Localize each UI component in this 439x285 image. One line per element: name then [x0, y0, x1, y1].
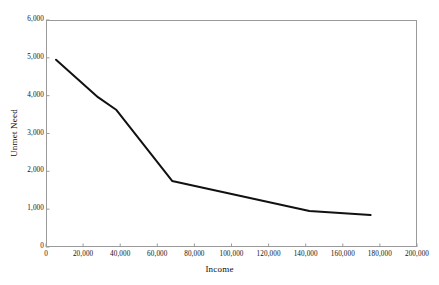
unmet-need-line	[56, 60, 371, 215]
plot-canvas	[0, 0, 439, 285]
x-tick-label-10: 200,000	[387, 251, 439, 258]
x-axis-ticks	[46, 244, 417, 248]
unmet-need-income-line-chart: 01,0002,0003,0004,0005,0006,000 020,0004…	[0, 0, 439, 285]
y-axis-ticks	[46, 20, 50, 247]
y-axis-title-wrapper: Unmet Need	[4, 0, 24, 285]
x-axis-title: Income	[0, 264, 439, 274]
y-axis-title: Unmet Need	[9, 109, 19, 157]
x-tick-label-group: 020,00040,00060,00080,000100,000120,0001…	[0, 251, 439, 265]
